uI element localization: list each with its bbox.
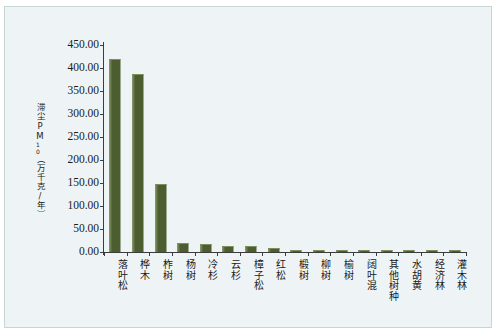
- y-axis-tick-label: 50.00: [73, 223, 99, 234]
- y-axis-tick-label: 200.00: [67, 154, 99, 165]
- x-axis-category-label-text: 柞树: [161, 259, 172, 280]
- bar[interactable]: [223, 246, 234, 252]
- bar[interactable]: [132, 74, 143, 252]
- x-axis-tick: [443, 252, 444, 256]
- bar-slot: [421, 45, 444, 252]
- bar[interactable]: [178, 243, 189, 252]
- x-axis-category-label-text: 桦木: [138, 259, 149, 280]
- x-axis-category-label-text: 其他树种: [387, 259, 398, 301]
- bar-slot: [149, 45, 172, 252]
- x-axis-category-label: 杨树: [172, 259, 194, 280]
- plot-area: [104, 45, 466, 252]
- x-axis-category-label: 其他树种: [376, 259, 398, 301]
- bar-slot: [195, 45, 218, 252]
- x-axis-tick: [353, 252, 354, 256]
- x-axis-category-label-text: 冷杉: [206, 259, 217, 280]
- x-axis-category-label-text: 落叶松: [116, 259, 127, 291]
- figure-page: 滞尘PM10（万千克/年） 0.0050.00100.00150.00200.0…: [0, 0, 498, 336]
- x-axis-category-labels: 落叶松桦木柞树杨树冷杉云杉樟子松红松椴树柳树榆树阔叶混其他树种水胡黄经济林灌木林: [104, 259, 466, 329]
- bar-slot: [127, 45, 150, 252]
- x-axis-category-label: 红松: [263, 259, 285, 280]
- x-axis-category-label-text: 云杉: [229, 259, 240, 280]
- bar-slot: [104, 45, 127, 252]
- bar[interactable]: [336, 250, 347, 252]
- y-axis-tick-labels: 0.0050.00100.00150.00200.00250.00300.003…: [39, 45, 99, 252]
- bar[interactable]: [427, 250, 438, 252]
- x-axis-tick: [466, 252, 467, 256]
- y-axis-tick-label: 450.00: [67, 39, 99, 50]
- x-axis-category-label: 落叶松: [104, 259, 126, 291]
- bar[interactable]: [268, 248, 279, 252]
- x-axis-category-label-text: 水胡黄: [410, 259, 421, 291]
- x-axis-category-label: 椴树: [285, 259, 307, 280]
- x-axis-category-label-text: 柳树: [319, 259, 330, 280]
- x-axis-category-label: 经济林: [421, 259, 443, 291]
- bar-slot: [376, 45, 399, 252]
- x-axis-category-label: 灌木林: [444, 259, 466, 291]
- x-axis-category-label: 阔叶混: [353, 259, 375, 291]
- x-axis-tick: [127, 252, 128, 256]
- x-axis-tick: [172, 252, 173, 256]
- y-axis-tick-label: 300.00: [67, 108, 99, 119]
- bar-slot: [285, 45, 308, 252]
- x-axis-tick: [149, 252, 150, 256]
- x-axis-tick: [398, 252, 399, 256]
- x-axis-category-label: 榆树: [331, 259, 353, 280]
- x-axis-category-label: 冷杉: [195, 259, 217, 280]
- bar[interactable]: [449, 250, 460, 252]
- x-axis-category-label-text: 阔叶混: [365, 259, 376, 291]
- bar[interactable]: [155, 184, 166, 252]
- bar-slot: [240, 45, 263, 252]
- x-axis-category-label: 柞树: [150, 259, 172, 280]
- x-axis-category-label-text: 椴树: [297, 259, 308, 280]
- bar-slot: [330, 45, 353, 252]
- bar[interactable]: [404, 250, 415, 252]
- x-axis-category-label-text: 红松: [274, 259, 285, 280]
- bar-slot: [172, 45, 195, 252]
- x-axis-tick: [104, 252, 105, 256]
- x-axis-category-label: 桦木: [127, 259, 149, 280]
- bar-slot: [262, 45, 285, 252]
- x-axis-tick: [308, 252, 309, 256]
- y-axis-tick-label: 250.00: [67, 131, 99, 142]
- x-axis-tick: [262, 252, 263, 256]
- bar[interactable]: [359, 250, 370, 252]
- x-axis-tick: [330, 252, 331, 256]
- bar-slot: [308, 45, 331, 252]
- chart-figure-frame: 滞尘PM10（万千克/年） 0.0050.00100.00150.00200.0…: [4, 6, 492, 328]
- bar[interactable]: [246, 246, 257, 252]
- bar[interactable]: [381, 250, 392, 252]
- y-axis-tick-label: 100.00: [67, 200, 99, 211]
- x-axis-tick: [285, 252, 286, 256]
- x-axis-tick: [217, 252, 218, 256]
- x-axis-tick: [240, 252, 241, 256]
- bar-slot: [217, 45, 240, 252]
- x-axis-category-label-text: 经济林: [433, 259, 444, 291]
- bar-slot: [353, 45, 376, 252]
- bar[interactable]: [110, 59, 121, 252]
- bar-slot: [398, 45, 421, 252]
- y-axis-tick-label: 400.00: [67, 62, 99, 73]
- bar[interactable]: [313, 250, 324, 252]
- x-axis-category-label: 柳树: [308, 259, 330, 280]
- x-axis-category-label-text: 灌木林: [455, 259, 466, 291]
- x-axis-tick: [421, 252, 422, 256]
- y-axis-tick-label: 150.00: [67, 177, 99, 188]
- bar[interactable]: [291, 250, 302, 252]
- x-axis-tick: [195, 252, 196, 256]
- x-axis-category-label-text: 榆树: [342, 259, 353, 280]
- bar-slot: [443, 45, 466, 252]
- x-axis-category-label-text: 樟子松: [252, 259, 263, 291]
- bar[interactable]: [200, 244, 211, 252]
- y-axis-tick-label: 350.00: [67, 85, 99, 96]
- x-axis-category-label: 云杉: [217, 259, 239, 280]
- x-axis-category-label: 樟子松: [240, 259, 262, 291]
- x-axis-category-label-text: 杨树: [184, 259, 195, 280]
- x-axis-tick: [376, 252, 377, 256]
- y-axis-tick-label: 0.00: [79, 246, 99, 257]
- x-axis-category-label: 水胡黄: [398, 259, 420, 291]
